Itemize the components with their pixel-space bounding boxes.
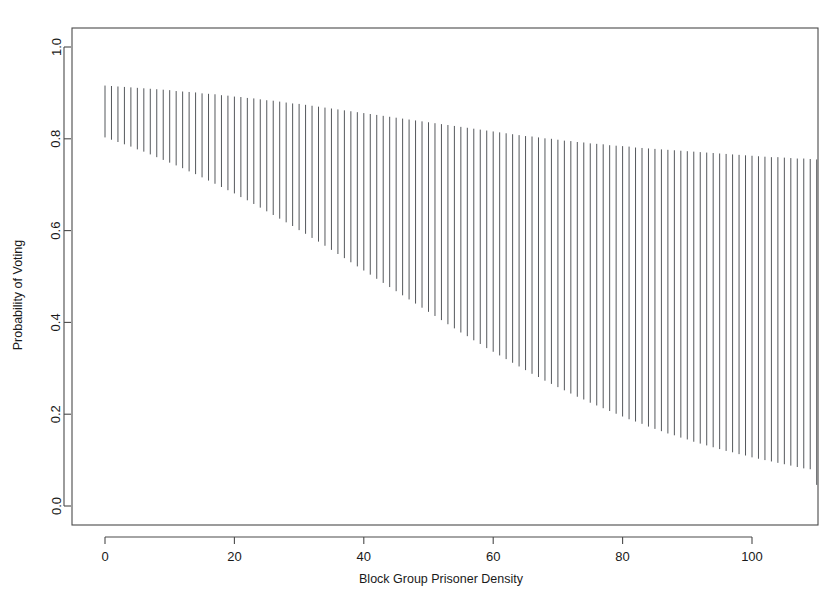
x-tick-label: 40 bbox=[357, 549, 371, 564]
plot-canvas: 0.00.20.40.60.81.0 020406080100 Block Gr… bbox=[0, 0, 831, 611]
plot-frame bbox=[72, 28, 818, 525]
chart-figure: 0.00.20.40.60.81.0 020406080100 Block Gr… bbox=[0, 0, 831, 611]
x-axis: 020406080100 bbox=[101, 537, 762, 564]
x-tick-label: 80 bbox=[615, 549, 629, 564]
x-tick-label: 20 bbox=[227, 549, 241, 564]
y-tick-label: 0.8 bbox=[49, 130, 64, 148]
x-tick-label: 100 bbox=[741, 549, 763, 564]
x-tick-label: 0 bbox=[101, 549, 108, 564]
x-tick-label: 60 bbox=[486, 549, 500, 564]
y-tick-label: 0.0 bbox=[49, 497, 64, 515]
y-tick-label: 1.0 bbox=[49, 38, 64, 56]
y-tick-label: 0.4 bbox=[49, 313, 64, 331]
y-tick-label: 0.2 bbox=[49, 405, 64, 423]
plot-frame-box bbox=[72, 28, 818, 525]
y-axis: 0.00.20.40.60.81.0 bbox=[49, 38, 72, 515]
y-tick-label: 0.6 bbox=[49, 222, 64, 240]
y-axis-title: Probability of Voting bbox=[11, 240, 25, 351]
x-axis-title: Block Group Prisoner Density bbox=[359, 572, 524, 586]
confidence-interval-bars bbox=[105, 86, 817, 485]
